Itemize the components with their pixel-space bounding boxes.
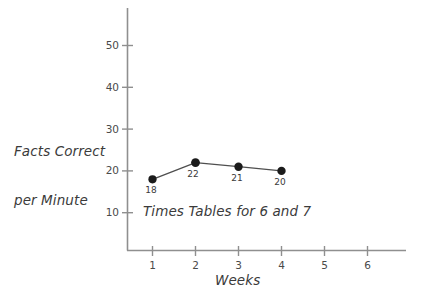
series-markers [148,158,285,183]
y-tick-label-40: 40 [97,81,119,93]
series-line [153,163,282,180]
x-tick-label-1: 1 [144,259,162,271]
x-tick-label-3: 3 [230,259,248,271]
data-point-week-3 [234,163,242,171]
y-tick-label-20: 20 [97,164,119,176]
x-tick-label-4: 4 [273,259,291,271]
x-tick-label-6: 6 [359,259,377,271]
data-point-week-2 [191,158,200,167]
x-tick-label-2: 2 [187,259,205,271]
data-label-week-3: 21 [227,173,247,183]
data-label-week-2: 22 [183,169,203,179]
line-chart: Facts Correct per Minute Weeks Times Tab… [0,0,423,301]
y-tick-label-30: 30 [97,123,119,135]
y-tick-label-50: 50 [97,39,119,51]
y-axis-title-line-1: Facts Correct [14,143,118,159]
data-point-week-1 [148,175,156,183]
data-label-week-4: 20 [270,177,290,187]
x-tick-label-5: 5 [316,259,334,271]
x-axis-title: Weeks [215,272,260,288]
y-tick-label-10: 10 [97,206,119,218]
data-label-week-1: 18 [141,185,161,195]
data-point-week-4 [277,167,285,175]
plot-annotation: Times Tables for 6 and 7 [143,203,311,219]
